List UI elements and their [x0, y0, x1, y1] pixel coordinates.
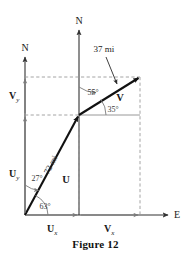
component-vx-label: Vx — [104, 223, 115, 237]
component-ux-sub: x — [53, 229, 58, 237]
north-axis-secondary-label: N — [21, 42, 28, 53]
vector-u-label: U — [62, 174, 70, 185]
component-uy-label: Uy — [9, 168, 20, 182]
component-ux-label: Ux — [47, 223, 58, 237]
angle-arc-27 — [25, 185, 39, 191]
angle-63-label: 63° — [39, 202, 50, 211]
component-vx-sub: x — [110, 229, 115, 237]
leader-line-37mi — [106, 57, 117, 84]
north-axis-main-label: N — [75, 15, 82, 26]
component-vy-label: Vy — [9, 90, 20, 104]
angle-35-label: 35° — [107, 105, 118, 114]
east-axis-label: E — [174, 209, 180, 220]
component-uy-sub: y — [15, 174, 20, 182]
vector-v-label: V — [116, 92, 124, 103]
angle-27-label: 27° — [31, 174, 42, 183]
angle-55-label: 55° — [87, 88, 98, 97]
component-uy-base: U — [9, 168, 16, 179]
component-vy-sub: y — [15, 96, 20, 104]
figure-container: N N E 37 mi V 55° 35° 72 mi U 27° 63° Vy… — [0, 0, 191, 260]
vector-v-magnitude-label: 37 mi — [94, 44, 115, 54]
figure-caption: Figure 12 — [0, 238, 191, 250]
vector-diagram: N N E 37 mi V 55° 35° 72 mi U 27° 63° Vy… — [0, 0, 191, 260]
component-ux-base: U — [47, 223, 54, 234]
